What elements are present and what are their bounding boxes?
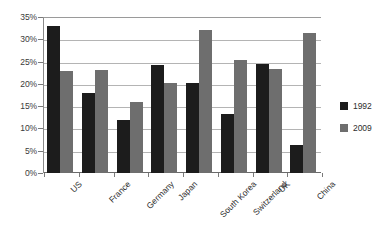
bar-group — [287, 18, 322, 173]
bar-group — [253, 18, 288, 173]
x-axis-tick-mark — [79, 173, 80, 177]
legend-item[interactable]: 2009 — [340, 123, 390, 133]
x-axis-tick-label: Germany — [144, 179, 176, 211]
x-axis-tick-label: US — [68, 179, 83, 194]
bar-group — [114, 18, 149, 173]
bar-chart: 19922009 0%5%10%15%20%25%30%35%USFranceG… — [0, 0, 392, 231]
bar[interactable] — [234, 60, 247, 173]
bar[interactable] — [256, 64, 269, 173]
bar[interactable] — [82, 93, 95, 173]
y-axis-tick-label: 20% — [0, 79, 37, 89]
x-axis-tick-label: South Korea — [217, 179, 257, 219]
x-axis-tick-label: Japan — [176, 179, 199, 202]
y-axis-tick-mark — [38, 128, 43, 129]
x-axis-tick-label: France — [107, 179, 133, 205]
bar[interactable] — [130, 102, 143, 173]
chart-legend: 19922009 — [340, 101, 390, 145]
x-axis-tick-mark — [183, 173, 184, 177]
y-axis-tick-mark — [38, 173, 43, 174]
x-axis-tick-mark — [322, 173, 323, 177]
x-axis-tick-mark — [44, 173, 45, 177]
y-axis-tick-label: 10% — [0, 123, 37, 133]
x-axis-tick-mark — [218, 173, 219, 177]
y-axis-tick-label: 5% — [0, 146, 37, 156]
bar-group — [148, 18, 183, 173]
y-axis-tick-mark — [38, 62, 43, 63]
plot-area — [43, 17, 321, 173]
bar[interactable] — [269, 69, 282, 173]
bar[interactable] — [47, 26, 60, 173]
bar-group — [44, 18, 79, 173]
x-axis-tick-mark — [287, 173, 288, 177]
bar[interactable] — [164, 83, 177, 173]
x-axis-tick-mark — [114, 173, 115, 177]
y-axis-tick-mark — [38, 151, 43, 152]
bar[interactable] — [151, 65, 164, 173]
bar-group — [79, 18, 114, 173]
y-axis-tick-mark — [38, 84, 43, 85]
bar[interactable] — [290, 145, 303, 173]
legend-label: 1992 — [353, 101, 372, 111]
bar[interactable] — [221, 114, 234, 173]
x-axis-tick-mark — [253, 173, 254, 177]
legend-swatch-icon — [340, 102, 348, 110]
bar[interactable] — [117, 120, 130, 173]
y-axis-tick-label: 35% — [0, 12, 37, 22]
bar[interactable] — [303, 33, 316, 173]
y-axis-tick-label: 0% — [0, 168, 37, 178]
bar-group — [183, 18, 218, 173]
legend-swatch-icon — [340, 124, 348, 132]
y-axis-tick-label: 15% — [0, 101, 37, 111]
bar[interactable] — [186, 83, 199, 173]
y-axis-tick-mark — [38, 39, 43, 40]
y-axis-tick-label: 30% — [0, 34, 37, 44]
bar[interactable] — [95, 70, 108, 173]
legend-label: 2009 — [353, 123, 372, 133]
y-axis-tick-mark — [38, 106, 43, 107]
legend-item[interactable]: 1992 — [340, 101, 390, 111]
x-axis-tick-mark — [148, 173, 149, 177]
y-axis-tick-label: 25% — [0, 57, 37, 67]
bar[interactable] — [60, 71, 73, 174]
bar[interactable] — [199, 30, 212, 173]
bar-group — [218, 18, 253, 173]
y-axis-tick-mark — [38, 17, 43, 18]
x-axis-tick-label: China — [314, 179, 337, 202]
